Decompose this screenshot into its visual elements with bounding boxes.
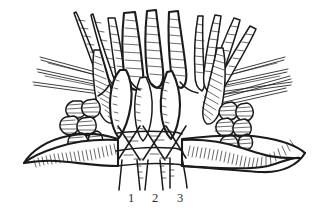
descend-line-2a <box>145 160 148 190</box>
figure-illustration: 1 2 3 <box>0 0 323 221</box>
descending-median-lines <box>119 158 187 190</box>
line-drawing-canvas <box>0 0 323 221</box>
descend-line-2b <box>160 160 163 190</box>
descend-line-1a <box>119 160 122 190</box>
papilla-5-central <box>146 10 164 88</box>
left-process-body <box>24 140 118 166</box>
right-lobe-c <box>216 118 234 136</box>
